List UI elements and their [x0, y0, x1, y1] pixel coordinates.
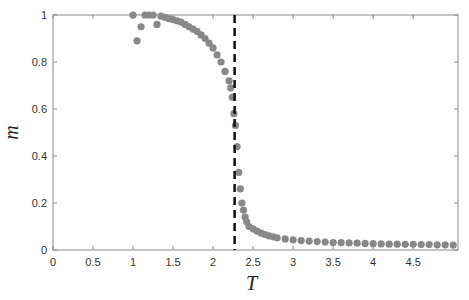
x-tick-label: 4: [370, 256, 376, 268]
data-point: [153, 21, 160, 28]
data-point: [418, 241, 425, 248]
data-point: [346, 239, 353, 246]
x-tick-label: 0.5: [85, 256, 100, 268]
data-point: [290, 236, 297, 243]
x-tick-label: 2: [210, 256, 216, 268]
scatter-chart: 00.511.522.533.544.500.20.40.60.81 T m: [0, 0, 469, 300]
data-point: [370, 240, 377, 247]
data-point: [410, 241, 417, 248]
data-point: [209, 44, 216, 51]
data-point: [394, 241, 401, 248]
y-tick-label: 0.6: [32, 103, 47, 115]
data-point: [362, 240, 369, 247]
data-point: [426, 241, 433, 248]
data-point: [235, 169, 242, 176]
data-point: [338, 239, 345, 246]
y-tick-label: 0.4: [32, 150, 47, 162]
plot-frame: [53, 15, 458, 250]
data-point: [225, 77, 232, 84]
data-point: [221, 68, 228, 75]
data-point: [129, 11, 136, 18]
data-point: [322, 238, 329, 245]
data-point: [240, 206, 247, 213]
data-point: [274, 234, 281, 241]
data-point: [282, 235, 289, 242]
x-tick-label: 3.5: [325, 256, 340, 268]
data-point: [450, 241, 457, 248]
y-tick-label: 0.8: [32, 56, 47, 68]
data-point: [434, 241, 441, 248]
data-point: [402, 241, 409, 248]
data-point: [238, 199, 245, 206]
y-tick-label: 0.2: [32, 197, 47, 209]
data-point: [306, 237, 313, 244]
x-tick-label: 0: [50, 256, 56, 268]
data-point: [149, 11, 156, 18]
data-point: [378, 240, 385, 247]
data-point: [227, 84, 234, 91]
x-tick-label: 1: [130, 256, 136, 268]
data-points: [129, 11, 456, 248]
x-tick-label: 3: [290, 256, 296, 268]
data-point: [314, 238, 321, 245]
data-point: [298, 237, 305, 244]
data-point: [237, 185, 244, 192]
x-tick-label: 4.5: [406, 256, 421, 268]
y-axis-label: m: [0, 125, 22, 139]
data-point: [133, 37, 140, 44]
data-point: [213, 51, 220, 58]
data-point: [330, 239, 337, 246]
data-point: [354, 240, 361, 247]
plot-axes: 00.511.522.533.544.500.20.40.60.81: [32, 9, 458, 268]
x-axis-label: T: [246, 272, 259, 294]
data-point: [386, 241, 393, 248]
y-tick-label: 0: [41, 244, 47, 256]
x-tick-label: 1.5: [165, 256, 180, 268]
y-tick-label: 1: [41, 9, 47, 21]
data-point: [442, 241, 449, 248]
data-point: [137, 23, 144, 30]
x-tick-label: 2.5: [245, 256, 260, 268]
data-point: [217, 58, 224, 65]
